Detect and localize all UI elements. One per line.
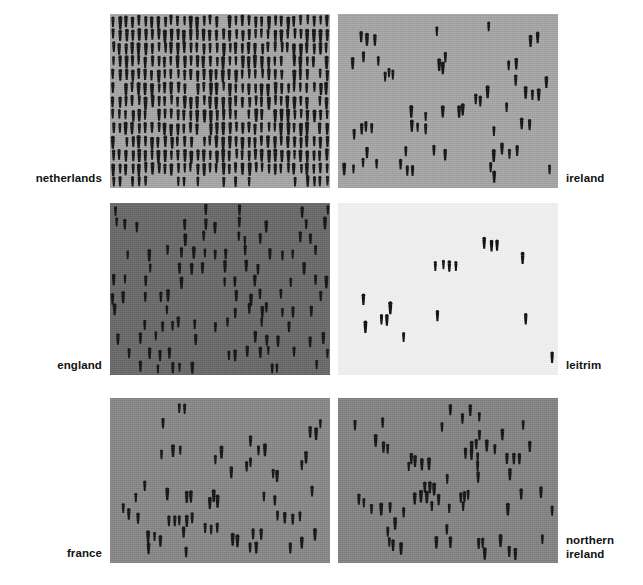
- panel-ireland[interactable]: [338, 14, 558, 188]
- panel-cell-france: [110, 398, 330, 563]
- population-density-figure: netherlands ireland england leitrim fran…: [0, 0, 643, 585]
- pictogram-field-netherlands: [110, 14, 330, 188]
- panel-cell-ireland: [338, 14, 558, 188]
- panel-northern-ireland[interactable]: [338, 398, 558, 563]
- pictogram-field-northern-ireland: [338, 398, 558, 563]
- panel-label-england: england: [0, 359, 102, 373]
- panel-netherlands[interactable]: [110, 14, 330, 188]
- panel-cell-netherlands: [110, 14, 330, 188]
- panel-label-france: france: [0, 547, 102, 561]
- pictogram-field-ireland: [338, 14, 558, 188]
- panel-cell-england: [110, 203, 330, 375]
- panel-label-leitrim: leitrim: [566, 359, 643, 373]
- panel-leitrim[interactable]: [338, 203, 558, 375]
- pictogram-field-england: [110, 203, 330, 375]
- panel-england[interactable]: [110, 203, 330, 375]
- panel-label-ireland: ireland: [566, 172, 643, 186]
- pictogram-field-leitrim: [338, 203, 558, 375]
- panel-cell-northern-ireland: [338, 398, 558, 563]
- panel-label-northern-ireland: northern ireland: [566, 534, 643, 561]
- panel-cell-leitrim: [338, 203, 558, 375]
- pictogram-field-france: [110, 398, 330, 563]
- panel-france[interactable]: [110, 398, 330, 563]
- panel-label-netherlands: netherlands: [0, 172, 102, 186]
